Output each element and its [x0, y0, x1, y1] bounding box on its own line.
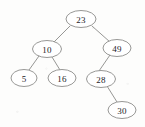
node-label-5: 5 [22, 74, 27, 84]
node-label-16: 16 [57, 74, 67, 84]
node-label-10: 10 [42, 45, 52, 55]
node-label-49: 49 [112, 44, 122, 54]
tree-edges-group [29, 26, 117, 102]
tree-node-28[interactable]: 28 [87, 71, 116, 88]
tree-edge-n49-n28 [99, 55, 110, 71]
tree-edge-n10-n5 [29, 56, 39, 70]
node-label-30: 30 [117, 106, 127, 116]
tree-canvas: 2310495162830 [0, 0, 145, 127]
node-label-23: 23 [76, 15, 86, 25]
tree-node-30[interactable]: 30 [108, 102, 136, 119]
tree-edge-n23-n10 [54, 26, 70, 42]
tree-nodes-group: 2310495162830 [11, 11, 136, 119]
tree-node-23[interactable]: 23 [66, 11, 96, 28]
tree-edge-n28-n30 [107, 86, 117, 102]
tree-node-49[interactable]: 49 [103, 40, 131, 57]
tree-node-16[interactable]: 16 [48, 70, 76, 87]
tree-edge-n23-n49 [92, 26, 110, 42]
tree-node-10[interactable]: 10 [33, 41, 62, 58]
tree-node-5[interactable]: 5 [11, 70, 37, 87]
tree-edge-n10-n16 [52, 57, 60, 70]
node-label-28: 28 [96, 75, 106, 85]
binary-search-tree-figure: 2310495162830 [0, 0, 145, 127]
